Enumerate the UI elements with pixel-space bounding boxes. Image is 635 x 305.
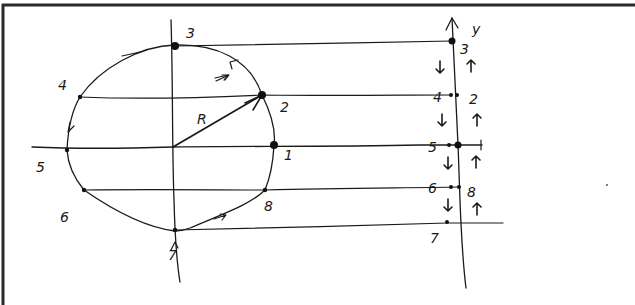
circle-point-label-7: 7 <box>168 247 177 263</box>
circle-point-label-5: 5 <box>36 159 45 175</box>
down-arrow-icon <box>436 61 444 73</box>
axis-point-label-6: 6 <box>428 180 437 196</box>
circle-point-label-6: 6 <box>60 209 69 225</box>
y-axis-label: y <box>471 21 481 37</box>
axis-point-8 <box>457 185 461 189</box>
axis-point-label-7: 7 <box>430 230 439 246</box>
up-arrow-icon <box>473 114 481 126</box>
circle-point-2 <box>258 91 266 99</box>
up-arrow-icon <box>467 60 475 72</box>
circle-direction-arrow-icon <box>230 60 238 69</box>
axis-point-label-8: 8 <box>467 184 476 200</box>
axis-point-7 <box>445 220 449 224</box>
axis-point-6 <box>449 185 453 189</box>
radius-vector <box>173 95 262 147</box>
down-arrow-icon <box>438 114 446 126</box>
circle-outline <box>67 45 275 231</box>
up-arrow-icon <box>473 203 481 215</box>
circle-point-7 <box>173 228 177 232</box>
circle-point-6 <box>82 188 86 192</box>
axis-point-5 <box>447 143 451 147</box>
circle-projection-sketch: R y 1 2 3 4 5 6 7 8 3 4 2 5 <box>0 0 635 305</box>
center-horizontal-line <box>32 145 482 148</box>
circle-point-label-8: 8 <box>264 198 273 214</box>
circle-point-5 <box>65 148 69 152</box>
axis-point-label-2: 2 <box>469 91 478 107</box>
circle-point-label-1: 1 <box>284 147 293 163</box>
axis-point-label-3: 3 <box>460 41 469 57</box>
axis-point-3 <box>449 38 456 45</box>
circle-point-1 <box>270 141 278 149</box>
axis-point-label-5: 5 <box>428 139 437 155</box>
projection-line-7 <box>175 223 503 230</box>
speck <box>606 184 608 186</box>
circle-direction-arrow-icon <box>68 122 74 132</box>
down-arrow-icon <box>444 157 452 169</box>
circle-point-label-3: 3 <box>186 25 195 41</box>
axis-points <box>445 38 462 225</box>
radius-label: R <box>197 111 207 127</box>
axis-point-4 <box>449 93 453 97</box>
y-axis <box>452 18 466 288</box>
axis-point-1 <box>455 142 462 149</box>
up-arrow-icon <box>472 156 480 168</box>
diagram-frame: R y 1 2 3 4 5 6 7 8 3 4 2 5 <box>0 0 635 305</box>
circle-point-4 <box>78 95 82 99</box>
circle-point-label-2: 2 <box>280 99 289 115</box>
circle-point-label-4: 4 <box>58 77 67 93</box>
axis-point-label-4: 4 <box>433 89 442 105</box>
circle-point-8 <box>263 188 267 192</box>
projection-line-3 <box>175 41 452 46</box>
projection-line-6-8 <box>84 187 459 190</box>
down-arrow-icon <box>444 199 452 211</box>
circle-point-3 <box>171 42 179 50</box>
axis-point-2 <box>455 93 459 97</box>
